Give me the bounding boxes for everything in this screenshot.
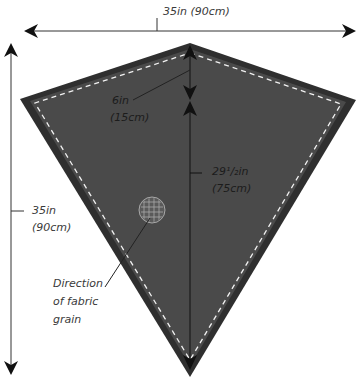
grain-note-line1: Direction bbox=[53, 276, 103, 292]
width-dimension-label: 35in (90cm) bbox=[163, 4, 230, 20]
top-section-label-line1: 6in bbox=[112, 93, 129, 109]
lower-section-label-line1: 29¹/₂in bbox=[212, 164, 249, 180]
lower-section-label-line2: (75cm) bbox=[212, 181, 251, 197]
grain-grid-circle-icon bbox=[139, 196, 165, 224]
width-dimension-arrow bbox=[24, 18, 356, 38]
height-dimension-label-line1: 35in bbox=[32, 203, 56, 219]
top-section-label-line2: (15cm) bbox=[110, 110, 149, 126]
height-dimension-arrow bbox=[4, 43, 24, 375]
grain-note-line3: grain bbox=[53, 312, 81, 328]
grain-note-line2: of fabric bbox=[53, 294, 98, 310]
height-dimension-label-line2: (90cm) bbox=[32, 220, 71, 236]
